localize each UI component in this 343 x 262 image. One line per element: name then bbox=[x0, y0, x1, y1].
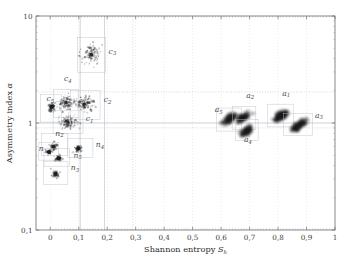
data-point bbox=[68, 104, 70, 106]
data-point bbox=[86, 102, 88, 104]
data-point bbox=[83, 111, 85, 113]
data-point bbox=[78, 55, 80, 57]
scatter-plot: c3c4c5c2c1n2n1n5n4n3a5a2a4a1a300,10,20,3… bbox=[0, 0, 343, 262]
cluster-label-subscript: 1 bbox=[287, 92, 290, 98]
data-point bbox=[56, 106, 58, 108]
data-point bbox=[81, 101, 83, 103]
data-point bbox=[63, 98, 64, 99]
data-point bbox=[66, 99, 68, 101]
data-point bbox=[91, 105, 92, 106]
data-point bbox=[69, 99, 70, 100]
data-point bbox=[251, 112, 255, 116]
y-axis-label-text: Asymmetry index bbox=[4, 88, 14, 164]
data-point bbox=[50, 168, 52, 170]
data-point bbox=[305, 122, 307, 124]
data-point bbox=[87, 99, 88, 100]
cluster-core bbox=[50, 105, 54, 109]
data-point bbox=[75, 119, 76, 120]
data-point bbox=[64, 95, 65, 96]
data-point bbox=[307, 122, 310, 125]
data-point bbox=[87, 51, 88, 52]
data-point bbox=[59, 106, 60, 107]
data-point bbox=[58, 121, 60, 123]
data-point bbox=[247, 110, 249, 112]
data-point bbox=[89, 102, 90, 103]
data-point bbox=[93, 55, 95, 57]
data-point bbox=[79, 51, 81, 53]
data-point bbox=[50, 144, 51, 145]
data-point bbox=[67, 108, 69, 110]
data-point bbox=[60, 126, 61, 127]
data-point bbox=[57, 104, 58, 105]
data-point bbox=[81, 99, 83, 101]
data-point bbox=[275, 117, 280, 122]
data-point bbox=[300, 124, 303, 127]
data-point bbox=[60, 124, 61, 125]
data-point bbox=[229, 114, 233, 118]
data-point bbox=[72, 125, 74, 127]
cluster-core bbox=[66, 120, 69, 123]
data-point bbox=[85, 95, 87, 97]
data-point bbox=[56, 146, 57, 147]
x-tick-label: 0,9 bbox=[301, 233, 313, 242]
data-point bbox=[78, 106, 79, 107]
data-point bbox=[68, 116, 69, 117]
data-point bbox=[220, 120, 224, 124]
data-point bbox=[52, 149, 54, 151]
cluster-label-subscript: 4 bbox=[247, 139, 252, 145]
data-point bbox=[90, 106, 91, 107]
data-point bbox=[95, 57, 97, 59]
data-point bbox=[278, 113, 283, 118]
data-point bbox=[71, 122, 72, 123]
data-point bbox=[57, 123, 58, 124]
data-point bbox=[89, 50, 91, 52]
data-point bbox=[93, 66, 95, 68]
data-point bbox=[73, 121, 74, 122]
data-point bbox=[89, 64, 91, 66]
data-point bbox=[97, 50, 99, 52]
data-point bbox=[92, 42, 94, 44]
data-point bbox=[92, 45, 94, 47]
data-point bbox=[53, 108, 54, 109]
x-tick-label: 0,8 bbox=[272, 233, 284, 242]
data-point bbox=[96, 60, 97, 61]
cluster-label-subscript: 2 bbox=[250, 94, 255, 100]
cluster-label-subscript: 3 bbox=[320, 114, 324, 120]
x-tick-label: 1 bbox=[333, 233, 338, 242]
data-point bbox=[87, 46, 89, 48]
cluster-label-subscript: 3 bbox=[113, 50, 117, 56]
data-point bbox=[70, 128, 71, 129]
data-point bbox=[58, 116, 60, 118]
data-point bbox=[76, 98, 77, 99]
data-point bbox=[77, 123, 79, 125]
x-tick-label: 0,3 bbox=[130, 233, 142, 242]
x-axis-label: Shannon entropy Sh bbox=[144, 244, 227, 255]
data-point bbox=[65, 126, 67, 128]
data-point bbox=[90, 46, 92, 48]
y-tick-label: 10 bbox=[23, 12, 33, 21]
cluster-core bbox=[64, 101, 67, 104]
x-axis-label-subscript: h bbox=[224, 249, 227, 255]
data-point bbox=[84, 63, 85, 64]
data-point bbox=[68, 119, 69, 120]
data-point bbox=[84, 97, 86, 99]
data-point bbox=[58, 174, 59, 175]
data-point bbox=[86, 56, 88, 58]
data-point bbox=[93, 52, 95, 54]
data-point bbox=[56, 177, 58, 179]
data-point bbox=[93, 104, 95, 106]
data-point bbox=[69, 119, 70, 120]
data-point bbox=[80, 150, 82, 152]
data-point bbox=[94, 50, 96, 52]
data-point bbox=[72, 102, 74, 104]
data-point bbox=[90, 60, 92, 62]
data-point bbox=[90, 98, 92, 100]
data-point bbox=[69, 96, 70, 97]
data-point bbox=[64, 128, 65, 129]
y-tick-label: 1 bbox=[28, 119, 33, 128]
data-point bbox=[98, 56, 99, 57]
data-point bbox=[63, 124, 65, 126]
data-point bbox=[63, 117, 65, 119]
data-point bbox=[48, 144, 50, 146]
data-point bbox=[61, 128, 63, 130]
